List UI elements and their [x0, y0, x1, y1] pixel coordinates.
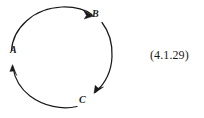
arc-c-to-a [10, 65, 77, 108]
arc-c-to-a-path [13, 67, 77, 108]
arrowhead-at-c [94, 85, 104, 93]
node-label-b: B [92, 9, 99, 19]
arc-b-to-c [94, 23, 112, 94]
arc-b-to-c-path [96, 23, 112, 93]
arrowhead-at-a [10, 65, 17, 76]
figure-container: A B C (4.1.29) [0, 0, 204, 118]
arc-a-to-b [12, 7, 94, 51]
node-label-c: C [79, 95, 86, 105]
cycle-diagram [0, 0, 130, 118]
equation-number: (4.1.29) [150, 48, 189, 62]
node-label-a: A [10, 45, 17, 55]
arc-a-to-b-path [12, 7, 92, 51]
